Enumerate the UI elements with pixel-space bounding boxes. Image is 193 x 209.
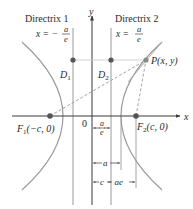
p-label: P(x, y) [150,55,178,67]
directrix-1-num: a [64,24,68,34]
f2-label: F2(c, 0) [136,121,168,134]
origin-label: 0 [82,118,87,129]
y-axis-label: y [88,6,94,17]
directrix-1-title: Directrix 1 [25,13,69,24]
point-d1 [70,57,75,62]
x-axis-label: x [183,111,189,122]
point-p [143,57,148,62]
f1-label: F1(−c, 0) [16,123,55,136]
directrix-1-den: e [64,34,68,44]
directrix-2-eq: x = [115,29,129,39]
directrix-2-num: a [137,24,141,34]
a-over-e-den: e [100,128,104,137]
d2-label: D2 [97,69,109,82]
point-d2 [108,57,113,62]
point-f2 [133,113,139,119]
dim-c-label: c = ae [100,177,123,187]
directrix-2-title: Directrix 2 [115,13,159,24]
hyperbola-diagram: Directrix 1 x = − a e Directrix 2 x = a … [0,0,193,209]
dim-a-label: a [103,158,108,168]
d1-label: D1 [59,69,71,82]
a-over-e-num: a [100,119,104,128]
directrix-1-eq: x = − [35,29,58,39]
directrix-2-den: e [137,34,141,44]
point-f1 [47,113,53,119]
